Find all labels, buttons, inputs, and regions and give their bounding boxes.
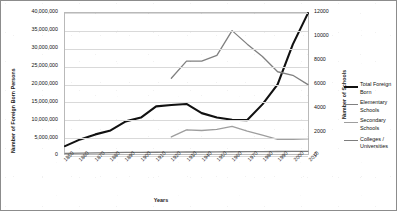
- legend-swatch-line-icon: [344, 140, 358, 141]
- legend-item[interactable]: Secondary Schools: [344, 117, 397, 132]
- right-axis-tick: 12000: [314, 9, 329, 14]
- legend-item-label: Colleges / Universities: [360, 136, 397, 151]
- plot-area: [64, 12, 309, 155]
- legend-swatch-line-icon: [344, 122, 358, 123]
- legend-swatch-line-icon: [344, 104, 358, 105]
- x-axis-title: Years: [1, 197, 321, 203]
- gridline: [65, 67, 308, 68]
- right-axis-tick: 10000: [314, 33, 329, 38]
- series-lines: [65, 13, 308, 154]
- gridline: [65, 31, 308, 32]
- series-line-total-foreign-born: [65, 13, 308, 146]
- chart-figure: 05,000,00010,000,00015,000,00020,000,000…: [0, 0, 397, 211]
- right-axis-tick: 6000: [314, 81, 326, 86]
- gridline: [65, 120, 308, 121]
- legend-item[interactable]: Total Foreign Born: [344, 81, 397, 96]
- right-axis-tick: 0: [314, 152, 317, 157]
- gridline: [65, 13, 308, 14]
- right-axis-tick-labels: 020004000600080001000012000: [311, 1, 341, 211]
- right-axis-tick: 2000: [314, 129, 326, 134]
- legend-item[interactable]: Colleges / Universities: [344, 136, 397, 151]
- legend-item-label: Elementary Schools: [360, 99, 397, 114]
- legend-item[interactable]: Elementary Schools: [344, 99, 397, 114]
- left-axis-tick: 30,000,000: [1, 45, 58, 50]
- left-axis-tick: 35,000,000: [1, 27, 58, 32]
- legend-item-label: Total Foreign Born: [360, 81, 397, 96]
- left-axis-tick: 0: [1, 152, 58, 157]
- legend-swatch-line-icon: [344, 86, 358, 88]
- gridline: [65, 102, 308, 103]
- right-axis-tick: 8000: [314, 57, 326, 62]
- left-axis-tick: 40,000,000: [1, 9, 58, 14]
- legend-item-label: Secondary Schools: [360, 117, 397, 132]
- left-axis-title: Number of Foreign Born Persons: [10, 68, 16, 153]
- right-axis-tick: 4000: [314, 105, 326, 110]
- gridline: [65, 85, 308, 86]
- gridline: [65, 49, 308, 50]
- chart-legend: Total Foreign BornElementary SchoolsSeco…: [344, 81, 397, 154]
- gridline: [65, 138, 308, 139]
